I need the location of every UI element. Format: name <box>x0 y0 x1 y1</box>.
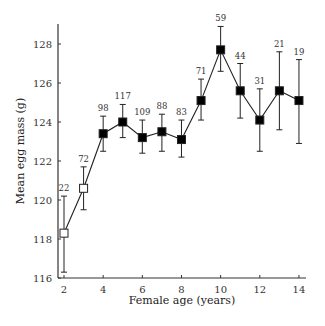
y-tick-label: 118 <box>33 234 52 245</box>
sample-size-label: 31 <box>254 76 265 86</box>
sample-size-label: 98 <box>98 103 109 113</box>
filled-square-marker <box>197 97 205 105</box>
sample-size-label: 71 <box>196 66 207 76</box>
filled-square-marker <box>217 46 225 54</box>
sample-size-label: 83 <box>176 107 187 117</box>
x-tick-label: 14 <box>293 284 306 295</box>
y-tick-label: 122 <box>33 156 52 167</box>
sample-size-label: 117 <box>115 91 131 101</box>
sample-size-label: 59 <box>215 13 226 23</box>
y-tick-label: 124 <box>33 117 52 128</box>
sample-size-label: 109 <box>134 107 150 117</box>
filled-square-marker <box>236 87 244 95</box>
sample-size-label: 44 <box>235 51 246 61</box>
y-tick-label: 128 <box>33 39 52 50</box>
sample-size-label: 88 <box>156 101 167 111</box>
filled-square-marker <box>158 128 166 136</box>
y-tick-label: 116 <box>33 273 52 284</box>
y-tick-label: 120 <box>33 195 52 206</box>
x-axis-title: Female age (years) <box>129 294 235 307</box>
filled-square-marker <box>256 116 264 124</box>
sample-size-label: 21 <box>274 39 285 49</box>
open-square-marker <box>60 229 68 237</box>
egg-mass-chart: 1161181201221241261282468101214Female ag… <box>0 0 325 326</box>
x-tick-label: 2 <box>61 284 67 295</box>
filled-square-marker <box>138 134 146 142</box>
sample-size-label: 72 <box>78 154 89 164</box>
y-axis-title: Mean egg mass (g) <box>14 98 27 204</box>
open-square-marker <box>80 184 88 192</box>
filled-square-marker <box>119 118 127 126</box>
x-tick-label: 12 <box>253 284 266 295</box>
x-tick-label: 4 <box>100 284 106 295</box>
sample-size-label: 22 <box>59 183 70 193</box>
filled-square-marker <box>275 87 283 95</box>
filled-square-marker <box>99 130 107 138</box>
filled-square-marker <box>295 97 303 105</box>
filled-square-marker <box>177 136 185 144</box>
sample-size-label: 19 <box>294 47 305 57</box>
y-tick-label: 126 <box>33 78 52 89</box>
